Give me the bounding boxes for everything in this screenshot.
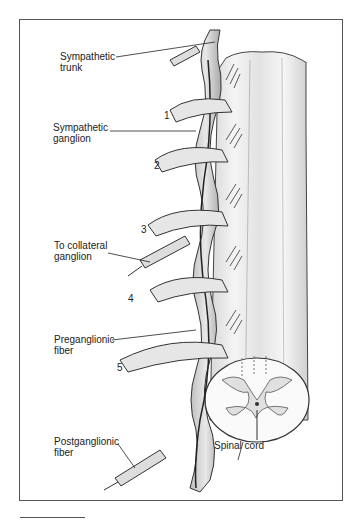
nerve-number-1: 1 <box>164 110 170 121</box>
nerve-number-5: 5 <box>117 362 123 373</box>
nerve-number-4: 4 <box>128 293 134 304</box>
label-spinal-cord: Spinal cord <box>214 440 264 451</box>
nerve-number-2: 2 <box>154 160 160 171</box>
footnote-rule <box>20 517 85 518</box>
label-to-collateral-ganglion: To collateral ganglion <box>54 240 107 262</box>
label-preganglionic-fiber: Preganglionic fiber <box>54 334 115 356</box>
label-sympathetic-trunk: Sympathetic trunk <box>60 51 115 73</box>
label-postganglionic-fiber: Postganglionic fiber <box>54 436 119 458</box>
label-sympathetic-ganglion: Sympathetic ganglion <box>53 122 108 144</box>
nerve-number-3: 3 <box>141 224 147 235</box>
